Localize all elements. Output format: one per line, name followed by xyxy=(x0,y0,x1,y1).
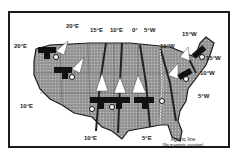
label-5w-top: 5°W xyxy=(144,27,155,33)
map-frame: 20°E 20°E 15°E 10°E 0° 5°W 15°W 10°W 15°… xyxy=(8,11,230,148)
label-15e-top: 15°E xyxy=(90,27,103,33)
label-10w-a: 10°W xyxy=(160,43,175,49)
us-map xyxy=(10,13,230,148)
label-10w-east: 10°W xyxy=(200,70,215,76)
label-10e-south: 10°E xyxy=(84,135,97,141)
label-20e-west: 20°E xyxy=(14,43,27,49)
label-15w-ne: 15°W xyxy=(182,31,197,37)
label-10e-top: 10°E xyxy=(110,27,123,33)
agonic-label-line2: (No magnetic variation) xyxy=(160,142,206,147)
label-20e-nw: 20°E xyxy=(66,23,79,29)
label-10e-sw: 10°E xyxy=(20,103,33,109)
label-0-top: 0° xyxy=(132,27,138,33)
label-15w-east: 15°W xyxy=(206,55,221,61)
label-5e-south: 5°E xyxy=(142,135,152,141)
agonic-line-label: Agonic line (No magnetic variation) xyxy=(160,137,206,147)
label-5w-east: 5°W xyxy=(198,93,209,99)
